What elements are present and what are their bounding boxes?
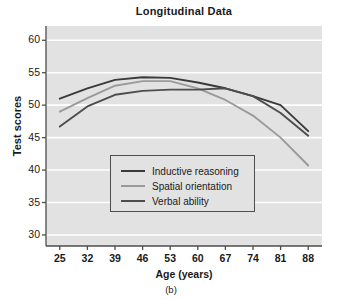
legend-label: Verbal ability (152, 196, 209, 207)
legend-color-swatch (121, 170, 145, 172)
legend-entry: Inductive reasoning (121, 163, 239, 179)
figure-container: Longitudinal Data Test scores 3035404550… (0, 0, 342, 300)
legend-label: Inductive reasoning (152, 166, 239, 177)
plot-background (46, 26, 322, 246)
plot-area (0, 0, 342, 300)
legend-label: Spatial orientation (152, 181, 232, 192)
figure-caption: (b) (0, 284, 342, 295)
legend-entry: Verbal ability (121, 193, 209, 209)
legend-entry: Spatial orientation (121, 178, 232, 194)
x-axis-label: Age (years) (46, 268, 322, 280)
legend-color-swatch (121, 185, 145, 187)
legend-color-swatch (121, 200, 145, 202)
chart-legend: Inductive reasoningSpatial orientationVe… (110, 155, 255, 212)
